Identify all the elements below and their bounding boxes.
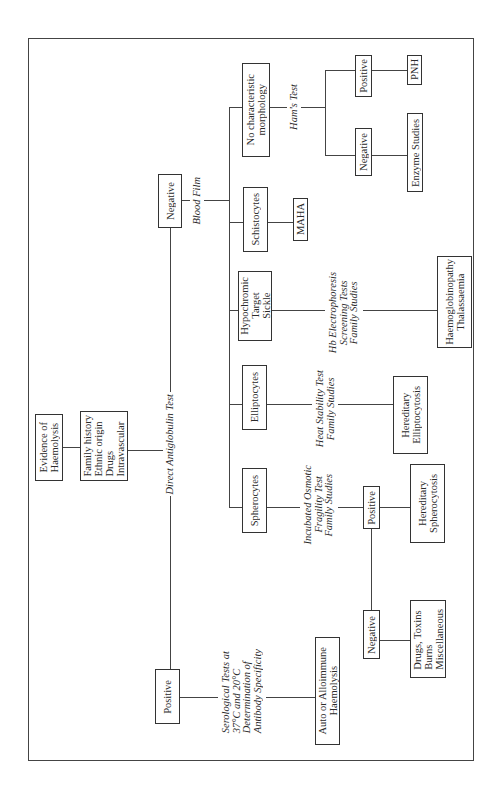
node-text: Haemoglobinopathy Thalassaemia [444, 259, 466, 345]
drugs-toxins-box: Drugs, Toxins Burns Miscellaneous [410, 600, 446, 678]
connector [229, 222, 243, 223]
schistocytes-box: Schistocytes [243, 187, 268, 252]
node-text: Positive [358, 59, 369, 93]
node-text: Hereditary Spherocytosis [417, 474, 439, 533]
spherocytes-box: Spherocytes [242, 468, 267, 533]
node-text: Negative [358, 133, 369, 171]
node-text: Hypochromic Target Sickle [239, 277, 272, 335]
node-text: Negative [366, 616, 377, 654]
blood-film-spine [229, 107, 230, 507]
node-text: Elliptocytes [249, 372, 260, 422]
dat-label: Direct Antiglobulin Test [163, 392, 177, 496]
connector [325, 155, 355, 156]
auto-alloimmune-box: Auto or Alloimmune Haemolysis [315, 637, 340, 745]
connector [325, 70, 326, 156]
connector [379, 507, 410, 508]
connector [380, 640, 410, 641]
edge-label-text: Direct Antiglobulin Test [165, 394, 176, 495]
osmotic-fragility-label: Incubated Osmotic Fragility Test Family … [300, 464, 338, 546]
node-text: Schistocytes [250, 193, 261, 246]
connector [229, 404, 242, 405]
history-box: Family history Ethnic origin Drugs Intra… [80, 411, 128, 481]
connector [372, 155, 407, 156]
node-text: Enzyme Studies [410, 119, 421, 187]
haemoglobinopathy-box: Haemoglobinopathy Thalassaemia [437, 256, 472, 348]
blood-film-label: Blood Film [190, 180, 204, 222]
hams-positive-box: Positive [355, 55, 372, 97]
evidence-of-haemolysis-box: Evidence of Haemolysis [35, 414, 63, 481]
edge-label-text: Incubated Osmotic Fragility Test Family … [303, 465, 335, 545]
edge-label-text: Ham's Test [289, 84, 300, 130]
node-text: Positive [366, 491, 377, 525]
node-text: MAHA [295, 203, 306, 235]
osmotic-negative-box: Negative [363, 610, 380, 659]
no-morphology-box: No characteristic morphology [242, 63, 270, 157]
connector [229, 107, 242, 108]
connector [229, 507, 242, 508]
dat-positive-box: Positive [155, 669, 180, 724]
maha-box: MAHA [293, 198, 308, 241]
node-text: No characteristic morphology [245, 74, 267, 145]
heat-stability-label: Heat Stability Test Family Studies [312, 370, 338, 448]
connector [268, 222, 293, 223]
elliptocytes-box: Elliptocytes [242, 365, 267, 430]
node-text: Negative [165, 182, 176, 220]
connector [325, 70, 355, 71]
node-text: PNH [409, 59, 420, 80]
connector [372, 70, 407, 71]
hb-electrophoresis-label: Hb Electrophoresis Screening Tests Famil… [325, 275, 363, 351]
pnh-box: PNH [407, 55, 422, 85]
dat-negative-box: Negative [158, 174, 182, 228]
connector [371, 529, 372, 610]
edge-label-text: Blood Film [192, 177, 203, 225]
connector [63, 447, 80, 448]
node-text: Spherocytes [249, 475, 260, 526]
node-text: Family history Ethnic origin Drugs Intra… [82, 415, 126, 477]
connector [229, 310, 238, 311]
hams-test-label: Ham's Test [287, 84, 301, 130]
node-text: Evidence of Haemolysis [38, 422, 60, 472]
osmotic-positive-box: Positive [363, 486, 380, 529]
node-text: Drugs, Toxins Burns Miscellaneous [412, 609, 445, 670]
hams-negative-box: Negative [355, 128, 372, 176]
enzyme-studies-box: Enzyme Studies [407, 113, 423, 192]
node-text: Auto or Alloimmune Haemolysis [317, 647, 339, 735]
edge-label-text: Hb Electrophoresis Screening Tests Famil… [328, 272, 360, 353]
hypochromic-box: Hypochromic Target Sickle [238, 271, 272, 341]
edge-label-text: Heat Stability Test Family Studies [315, 370, 336, 447]
node-text: Hereditary Elliptocytosis [400, 386, 422, 444]
hereditary-elliptocytosis-box: Hereditary Elliptocytosis [393, 376, 428, 454]
node-text: Positive [162, 680, 173, 714]
serological-tests-label: Serological Tests at 37°C and 20°C Deter… [218, 646, 266, 736]
hereditary-spherocytosis-box: Hereditary Spherocytosis [410, 464, 445, 543]
edge-label-text: Serological Tests at 37°C and 20°C Deter… [221, 649, 263, 733]
